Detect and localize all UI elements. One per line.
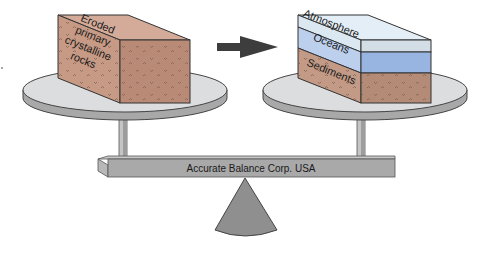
beam-label: Accurate Balance Corp. USA bbox=[187, 163, 316, 174]
stray-mark bbox=[1, 67, 3, 69]
arrow-right-icon bbox=[217, 36, 278, 58]
balance-diagram: Accurate Balance Corp. USA Eroded primar… bbox=[0, 0, 491, 254]
atmosphere-layer-side bbox=[361, 40, 431, 52]
balance-beam: Accurate Balance Corp. USA bbox=[98, 156, 395, 177]
balance-base bbox=[215, 178, 277, 236]
oceans-layer-side bbox=[361, 52, 431, 73]
